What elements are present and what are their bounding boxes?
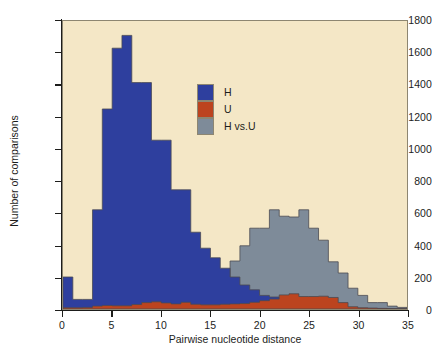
- legend-label-u: U: [224, 104, 232, 115]
- x-tick-label: 15: [204, 319, 216, 331]
- y-tick-label: 200: [380, 272, 432, 284]
- y-tick-mark: [55, 213, 61, 214]
- x-tick-label: 25: [303, 319, 315, 331]
- y-tick-label: 400: [380, 240, 432, 252]
- x-tick-mark: [309, 311, 310, 317]
- y-tick-mark: [55, 117, 61, 118]
- x-tick-label: 10: [155, 319, 167, 331]
- legend-label-h-vs-u: H vs.U: [224, 121, 256, 132]
- histogram-figure: 020040060080010001200140016001800 051015…: [0, 0, 432, 352]
- y-tick-mark: [55, 84, 61, 85]
- legend-swatch-h: [197, 84, 214, 101]
- y-tick-label: 1400: [380, 78, 432, 90]
- x-tick-mark: [408, 311, 409, 317]
- y-tick-mark: [55, 181, 61, 182]
- x-tick-mark: [62, 311, 63, 317]
- legend-swatch-u: [197, 101, 214, 118]
- x-tick-label: 35: [402, 319, 414, 331]
- x-axis-title: Pairwise nucleotide distance: [62, 333, 408, 345]
- y-axis-title: Number of comparisons: [8, 71, 20, 271]
- y-tick-label: 1600: [380, 46, 432, 58]
- x-axis-line: [61, 310, 409, 311]
- y-tick-mark: [55, 278, 61, 279]
- y-axis-line: [61, 19, 62, 311]
- y-tick-label: 1200: [380, 111, 432, 123]
- x-tick-mark: [210, 311, 211, 317]
- series-layer: [63, 21, 407, 309]
- y-tick-mark: [55, 20, 61, 21]
- y-tick-label: 0: [380, 304, 432, 316]
- x-tick-label: 0: [59, 319, 65, 331]
- x-tick-mark: [260, 311, 261, 317]
- x-tick-mark: [161, 311, 162, 317]
- legend-item-h: H: [197, 84, 256, 101]
- y-tick-label: 600: [380, 207, 432, 219]
- y-tick-mark: [55, 246, 61, 247]
- y-tick-mark: [55, 310, 61, 311]
- x-tick-label: 5: [108, 319, 114, 331]
- x-tick-mark: [111, 311, 112, 317]
- plot-area: [62, 20, 408, 310]
- x-tick-label: 20: [254, 319, 266, 331]
- legend-item-h-vs-u: H vs.U: [197, 118, 256, 135]
- y-tick-label: 1800: [380, 14, 432, 26]
- y-tick-mark: [55, 149, 61, 150]
- chart-legend: H U H vs.U: [197, 84, 256, 135]
- x-tick-label: 30: [353, 319, 365, 331]
- legend-label-h: H: [224, 87, 232, 98]
- y-tick-label: 1000: [380, 143, 432, 155]
- x-tick-mark: [359, 311, 360, 317]
- legend-swatch-h-vs-u: [197, 118, 214, 135]
- y-tick-label: 800: [380, 175, 432, 187]
- y-tick-mark: [55, 52, 61, 53]
- legend-item-u: U: [197, 101, 256, 118]
